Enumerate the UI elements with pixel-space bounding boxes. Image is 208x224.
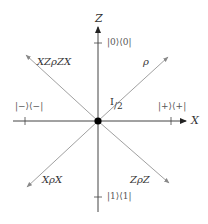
vector-xrhox: [27, 121, 98, 187]
vector-label-rho: ρ: [143, 57, 149, 67]
tick-label-top: |0⟩⟨0|: [107, 38, 132, 47]
tick-label-left: |−⟩⟨−|: [15, 102, 43, 111]
vector-rho: [98, 57, 168, 121]
origin-point: [94, 117, 101, 124]
vector-label-xrhox: XρX: [42, 175, 62, 185]
tick-label-bottom: |1⟩⟨1|: [107, 192, 132, 201]
vector-label-xzrhozx: XZρZX: [37, 57, 71, 67]
vector-label-zrhoz: ZρZ: [130, 175, 150, 185]
x-axis-label: X: [191, 115, 199, 126]
center-label: I/2: [110, 97, 123, 107]
diagram-canvas: [0, 0, 208, 224]
center-label-sub: /2: [114, 101, 123, 111]
tick-label-right: |+⟩⟨+|: [158, 102, 186, 111]
z-axis-label: Z: [95, 13, 103, 24]
bloch-diagram: Z X |0⟩⟨0| |1⟩⟨1| |−⟩⟨−| |+⟩⟨+| I/2 ρ XZ…: [0, 0, 208, 224]
